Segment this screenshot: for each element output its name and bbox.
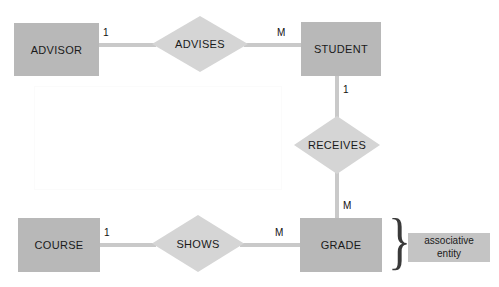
entity-grade-label: GRADE — [321, 239, 362, 251]
scan-artifact — [34, 86, 282, 87]
entity-student[interactable]: STUDENT — [301, 22, 381, 76]
entity-grade[interactable]: GRADE — [300, 218, 382, 272]
annotation-line-1: associative — [424, 235, 473, 246]
scan-artifact — [34, 86, 35, 190]
cardinality-course-shows: 1 — [104, 227, 110, 238]
connector-student-receives — [335, 76, 339, 118]
connector-shows-grade — [240, 243, 302, 247]
relationship-receives-label: RECEIVES — [294, 116, 380, 174]
annotation-associative-entity: associative entity — [408, 233, 490, 262]
entity-student-label: STUDENT — [314, 43, 368, 55]
connector-advisor-advises — [99, 43, 156, 47]
annotation-line-2: entity — [437, 248, 461, 259]
scan-artifact — [281, 86, 282, 190]
cardinality-advises-student: M — [277, 27, 285, 38]
cardinality-student-receives: 1 — [343, 84, 349, 95]
entity-advisor[interactable]: ADVISOR — [14, 23, 99, 76]
cardinality-receives-grade: M — [343, 200, 351, 211]
cardinality-shows-grade: M — [275, 227, 283, 238]
er-diagram-canvas: ADVISOR STUDENT COURSE GRADE ADVISES REC… — [0, 0, 499, 287]
entity-course[interactable]: COURSE — [18, 218, 100, 272]
scan-artifact — [34, 189, 282, 190]
relationship-advises[interactable]: ADVISES — [152, 16, 248, 72]
relationship-shows-label: SHOWS — [152, 215, 244, 272]
relationship-receives[interactable]: RECEIVES — [294, 116, 380, 174]
relationship-advises-label: ADVISES — [152, 16, 248, 72]
connector-course-shows — [100, 243, 156, 247]
relationship-shows[interactable]: SHOWS — [152, 215, 244, 272]
connector-advises-student — [244, 43, 302, 47]
entity-advisor-label: ADVISOR — [31, 44, 83, 56]
connector-receives-grade — [335, 172, 339, 219]
cardinality-advisor-advises: 1 — [103, 27, 109, 38]
entity-course-label: COURSE — [35, 239, 84, 251]
